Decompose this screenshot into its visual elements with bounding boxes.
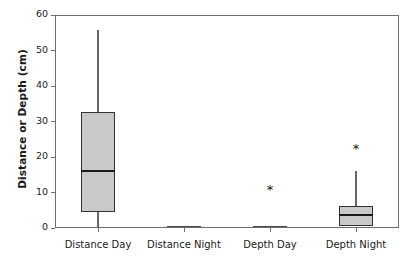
box-collapsed-line: [253, 226, 287, 227]
x-tick-mark: [356, 228, 357, 232]
y-tick-mark: [51, 192, 55, 193]
box-median-line: [339, 214, 373, 216]
x-tick-mark: [270, 228, 271, 232]
y-tick-label: 0: [42, 221, 48, 232]
y-tick-mark: [51, 157, 55, 158]
box-collapsed-line: [167, 226, 201, 227]
box-upper-whisker: [97, 30, 98, 112]
y-tick-mark: [51, 121, 55, 122]
box-body: [81, 112, 115, 212]
y-tick-label: 60: [36, 8, 48, 19]
y-axis-title: Distance or Depth (cm): [16, 29, 28, 209]
x-tick-mark: [98, 228, 99, 232]
outlier-marker: *: [353, 142, 360, 155]
x-tick-mark: [184, 228, 185, 232]
y-tick-label: 30: [36, 115, 48, 126]
box-plot-chart: Distance or Depth (cm) 0102030405060 Dis…: [0, 0, 412, 268]
outlier-marker: *: [267, 182, 274, 195]
y-tick-mark: [51, 228, 55, 229]
y-tick-label: 20: [36, 150, 48, 161]
y-tick-label: 40: [36, 79, 48, 90]
y-tick-label: 10: [36, 186, 48, 197]
y-tick-mark: [51, 15, 55, 16]
x-tick-label: Depth Night: [296, 239, 412, 250]
y-tick-mark: [51, 50, 55, 51]
box-body: [339, 206, 373, 226]
box-upper-whisker: [355, 171, 356, 206]
box-median-line: [81, 170, 115, 172]
box-lower-whisker: [97, 212, 98, 227]
y-tick-label: 50: [36, 44, 48, 55]
y-tick-mark: [51, 86, 55, 87]
